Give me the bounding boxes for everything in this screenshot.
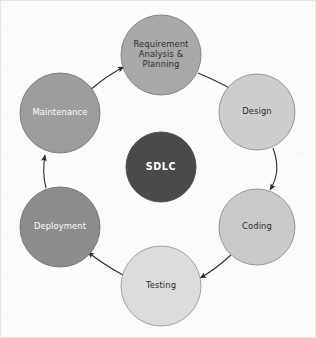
connector-deployment-to-maintenance <box>44 155 46 188</box>
stage-circle-testing[interactable] <box>121 246 201 326</box>
stage-circle-group <box>20 15 295 326</box>
connector-design-to-coding <box>270 148 277 190</box>
stage-circle-requirement-analysis-planning[interactable] <box>121 15 201 95</box>
stage-circle-deployment[interactable] <box>20 187 100 267</box>
connector-maintenance-to-requirement <box>90 67 124 90</box>
stage-circle-coding[interactable] <box>219 189 295 265</box>
cycle-canvas <box>1 1 316 338</box>
stage-circle-design[interactable] <box>219 74 295 150</box>
stage-circle-maintenance[interactable] <box>20 73 100 153</box>
hub-circle-sdlc[interactable] <box>126 132 196 202</box>
connector-coding-to-testing <box>200 255 231 278</box>
sdlc-cycle-diagram: Requirement Analysis & Planning Design C… <box>0 0 316 338</box>
connector-testing-to-deployment <box>88 252 123 275</box>
